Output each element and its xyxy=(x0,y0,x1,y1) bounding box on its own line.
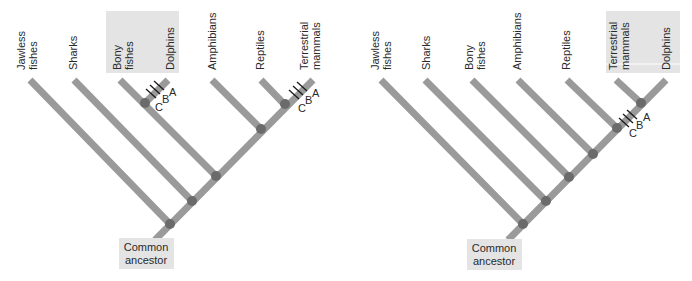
svg-text:Bony: Bony xyxy=(463,44,475,70)
branch-reptiles xyxy=(567,80,617,128)
cladogram-right: Jawless fishes Sharks Bony fishes Amphib… xyxy=(369,11,680,270)
taxon-label-reptiles: Reptiles xyxy=(254,30,266,70)
taxon-label-dolphins: Dolphins xyxy=(164,27,176,70)
taxon-label-jawless-fishes: Jawless fishes xyxy=(15,30,39,70)
svg-text:Common: Common xyxy=(124,241,169,253)
node-jawless-fishes xyxy=(518,219,528,229)
taxon-label-terrestrial-mammals: Terrestrial mammals xyxy=(607,22,631,70)
svg-text:Common: Common xyxy=(472,242,517,254)
svg-text:A: A xyxy=(312,87,320,99)
taxon-label-bony-fishes: Bony fishes xyxy=(111,41,135,70)
node-amphibians xyxy=(256,124,266,134)
svg-text:Jawless: Jawless xyxy=(369,30,381,70)
branch-terrestrial-mammals xyxy=(616,80,641,103)
taxon-label-reptiles: Reptiles xyxy=(560,30,572,70)
svg-text:Sharks: Sharks xyxy=(67,35,79,70)
branch-amphibians xyxy=(212,80,261,129)
common-ancestor-label: Common ancestor xyxy=(119,238,174,269)
svg-text:Terrestrial: Terrestrial xyxy=(298,22,310,70)
svg-text:Terrestrial: Terrestrial xyxy=(607,22,619,70)
svg-text:Jawless: Jawless xyxy=(15,30,27,70)
svg-text:ancestor: ancestor xyxy=(125,254,168,266)
svg-text:fishes: fishes xyxy=(381,41,393,70)
svg-text:Reptiles: Reptiles xyxy=(560,30,572,70)
svg-text:A: A xyxy=(643,111,651,123)
svg-text:fishes: fishes xyxy=(27,41,39,70)
node-reptiles xyxy=(612,123,622,133)
svg-text:fishes: fishes xyxy=(123,41,135,70)
node-jawless-fishes xyxy=(165,219,175,229)
svg-text:ancestor: ancestor xyxy=(473,255,516,267)
svg-text:Sharks: Sharks xyxy=(420,35,432,70)
common-ancestor-label: Common ancestor xyxy=(467,239,522,270)
node-bony-fishes xyxy=(211,171,221,181)
node-sharks xyxy=(187,196,197,206)
taxon-label-jawless-fishes: Jawless fishes xyxy=(369,30,393,70)
svg-text:fishes: fishes xyxy=(475,41,487,70)
taxon-label-bony-fishes: Bony fishes xyxy=(463,41,487,70)
svg-text:A: A xyxy=(169,86,177,98)
svg-text:Bony: Bony xyxy=(111,44,123,70)
cladogram-figure: Jawless fishes Sharks Bony fishes Dolphi… xyxy=(0,0,692,281)
node-reptiles-mammals xyxy=(280,99,290,109)
taxon-label-amphibians: Amphibians xyxy=(511,12,523,70)
taxon-label-dolphins: Dolphins xyxy=(660,27,672,70)
taxon-label-sharks: Sharks xyxy=(67,35,79,70)
node-terrestrial-mammals-dolphins xyxy=(636,98,646,108)
node-sharks xyxy=(541,196,551,206)
svg-text:mammals: mammals xyxy=(619,22,631,70)
svg-text:mammals: mammals xyxy=(310,22,322,70)
node-bony-fishes xyxy=(564,172,574,182)
cladogram-left: Jawless fishes Sharks Bony fishes Dolphi… xyxy=(15,11,322,269)
svg-text:Dolphins: Dolphins xyxy=(164,27,176,70)
svg-text:Amphibians: Amphibians xyxy=(511,12,523,70)
taxon-label-sharks: Sharks xyxy=(420,35,432,70)
branch-bony-fishes xyxy=(472,80,569,177)
node-bony-fishes-dolphins xyxy=(140,98,150,108)
svg-text:Amphibians: Amphibians xyxy=(206,12,218,70)
svg-text:Reptiles: Reptiles xyxy=(254,30,266,70)
taxon-label-amphibians: Amphibians xyxy=(206,12,218,70)
node-amphibians xyxy=(588,149,598,159)
taxon-label-terrestrial-mammals: Terrestrial mammals xyxy=(298,22,322,70)
svg-text:Dolphins: Dolphins xyxy=(660,27,672,70)
